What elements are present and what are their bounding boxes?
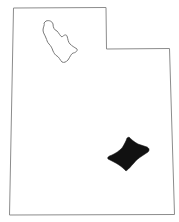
utah-map (0, 0, 179, 222)
map-background (0, 0, 179, 222)
map-container: Utah (0, 0, 179, 222)
